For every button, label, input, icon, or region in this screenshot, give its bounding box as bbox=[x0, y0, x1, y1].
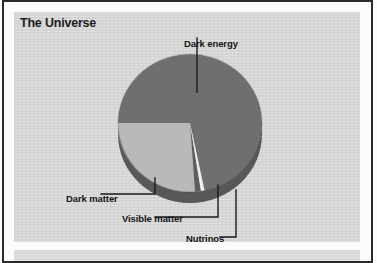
pie-chart: Dark energy Dark matter Visible matter N… bbox=[14, 12, 360, 242]
screenshot-root: The Universe bbox=[0, 0, 377, 263]
leader-nutrinos bbox=[220, 190, 236, 237]
label-dark-energy: Dark energy bbox=[184, 38, 238, 49]
pie-top-face bbox=[118, 54, 262, 192]
slice-dark-matter bbox=[118, 123, 195, 192]
label-visible-matter: Visible matter bbox=[122, 213, 183, 224]
label-dark-matter: Dark matter bbox=[66, 193, 118, 204]
frame-border-top bbox=[2, 0, 373, 2]
frame-border-left bbox=[2, 0, 4, 263]
frame-border-right bbox=[371, 0, 373, 263]
next-panel-peek bbox=[14, 250, 360, 261]
label-nutrinos: Nutrinos bbox=[186, 233, 224, 244]
